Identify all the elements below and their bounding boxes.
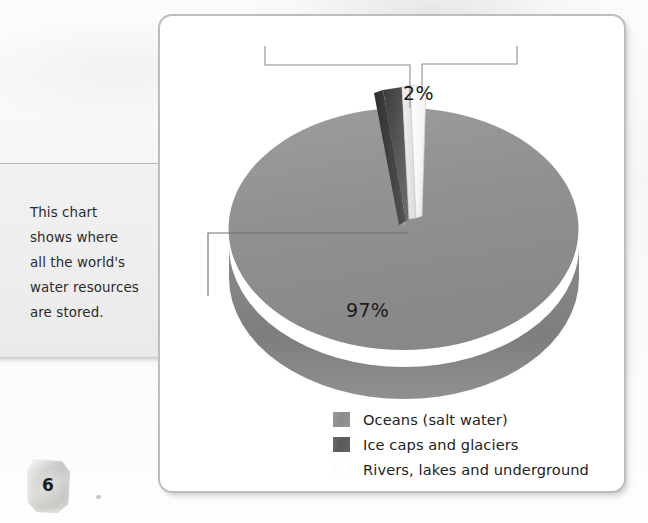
pie-chart: 2% 1% 97% Oceans (salt water) Ice caps a… [160,16,624,491]
page-number: 6 [26,459,70,513]
caption-box: This chart shows where all the world's w… [0,163,164,358]
page-canvas: This chart shows where all the world's w… [0,0,648,523]
leader-line-rivers [422,46,517,92]
legend-swatch-ice-caps-icon [333,437,350,452]
legend-item-rivers: Rivers, lakes and underground [333,457,623,482]
legend-item-ice-caps: Ice caps and glaciers [333,432,623,457]
legend-label-rivers: Rivers, lakes and underground [363,461,589,478]
legend-item-oceans: Oceans (salt water) [333,407,623,432]
legend-label-oceans: Oceans (salt water) [363,411,508,428]
legend-label-ice-caps: Ice caps and glaciers [363,436,519,453]
page-number-marker: 6 [26,459,70,513]
chart-panel: 2% 1% 97% Oceans (salt water) Ice caps a… [158,14,626,493]
caption-text: This chart shows where all the world's w… [30,200,156,325]
legend-swatch-oceans-icon [333,412,350,427]
chart-legend: Oceans (salt water) Ice caps and glacier… [333,407,623,482]
legend-swatch-rivers-icon [333,462,350,477]
data-label-oceans: 97% [346,299,389,321]
decorative-dot-icon [96,495,101,499]
data-label-ice-caps: 2% [403,82,434,104]
